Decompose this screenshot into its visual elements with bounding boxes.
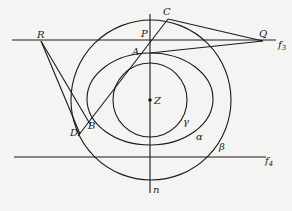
line-RD [41, 41, 80, 134]
label-B: B [87, 120, 95, 131]
label-gamma: γ [183, 116, 189, 127]
line-CD [78, 19, 168, 136]
label-beta: β [218, 141, 225, 152]
label-C: C [163, 6, 171, 17]
label-Z: Z [153, 95, 162, 106]
label-D: D [69, 127, 78, 138]
label-alpha: α [196, 131, 203, 142]
label-n: n [153, 184, 159, 195]
label-Q: Q [259, 28, 267, 39]
label-A: A [131, 46, 139, 57]
line-RB [41, 41, 90, 124]
label-f3: f3 [277, 39, 287, 52]
label-P: P [140, 28, 148, 39]
label-f4: f4 [264, 155, 273, 168]
label-R: R [36, 29, 45, 40]
geometry-diagram: R Q C P A B D Z f3 f4 n γ α β [0, 0, 292, 211]
center-point-Z [148, 98, 152, 102]
tangent-QC [168, 19, 263, 41]
